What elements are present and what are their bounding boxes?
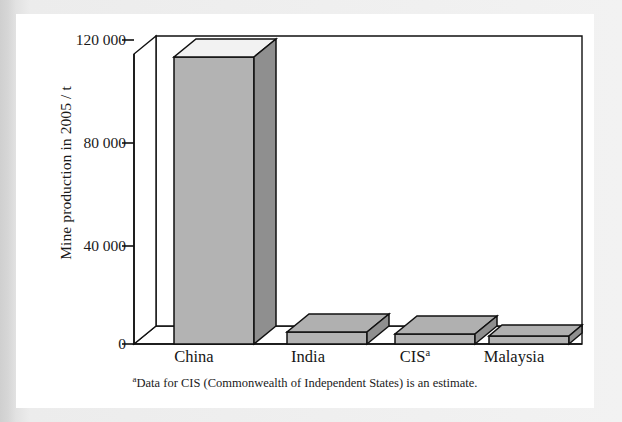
bar-front-face — [174, 57, 254, 344]
x-tick-label-superscript: a — [426, 347, 431, 358]
x-tick-label-text: China — [174, 347, 213, 366]
chart-canvas: Mine production in 2005 / t 120 000 80 0… — [16, 14, 594, 408]
x-tick-label-india: India — [248, 347, 368, 367]
axis-left-wall — [134, 36, 156, 344]
bar-front-face — [287, 332, 367, 344]
footnote-text: Data for CIS (Commonwealth of Independen… — [137, 376, 478, 390]
x-tick-label-china: China — [134, 347, 254, 367]
y-axis-ticks — [122, 40, 134, 344]
x-tick-label-text: Malaysia — [484, 347, 544, 366]
x-tick-label-text: CIS — [400, 347, 426, 366]
x-axis-tick-labels: China India CISa Malaysia — [16, 347, 594, 377]
x-tick-label-malaysia: Malaysia — [449, 347, 579, 367]
bar-top-face — [489, 325, 582, 336]
bar-front-face — [489, 336, 569, 344]
x-tick-label-text: India — [291, 347, 325, 366]
bar-malaysia[interactable] — [489, 325, 582, 344]
chart-footnote: aData for CIS (Commonwealth of Independe… — [16, 376, 594, 391]
bar-china[interactable] — [174, 39, 276, 344]
figure-outer-frame: Mine production in 2005 / t 120 000 80 0… — [0, 0, 622, 422]
bar-side-face — [254, 39, 276, 344]
bar-front-face — [395, 334, 475, 344]
